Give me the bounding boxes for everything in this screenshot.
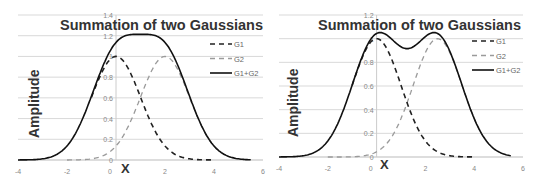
y-tick-label: 0.2 — [364, 130, 374, 137]
x-tick-label: 6 — [521, 165, 525, 172]
x-tick-label: 0 — [369, 165, 373, 172]
x-tick-label: 2 — [163, 168, 167, 175]
x-tick-label: 0 — [108, 168, 112, 175]
legend-label: G1 — [234, 40, 244, 49]
legend-label: G2 — [496, 52, 506, 61]
x-tick-label: -4 — [276, 165, 282, 172]
y-tick-label: 1.2 — [103, 33, 113, 40]
y-axis-label: Amplitude — [26, 70, 42, 138]
x-tick-label: -2 — [325, 165, 331, 172]
series-g2-line — [67, 56, 226, 160]
y-tick-label: 0.4 — [364, 107, 374, 114]
legend-label: G1+G2 — [496, 66, 520, 75]
y-tick-label: 0 — [109, 157, 113, 164]
y-tick-label: 0 — [370, 154, 374, 161]
x-tick-label: 4 — [472, 165, 476, 172]
series-g1-line — [352, 39, 474, 157]
x-tick-label: -2 — [64, 168, 70, 175]
x-tick-label: 2 — [423, 165, 427, 172]
y-tick-label: 0.8 — [103, 74, 113, 81]
x-tick-label: 4 — [212, 168, 216, 175]
y-axis-label: Amplitude — [285, 69, 301, 137]
chart-title: Summation of two Gaussians — [60, 17, 263, 33]
y-tick-label: 0.4 — [103, 116, 113, 123]
x-axis-label: X — [121, 161, 130, 176]
series-g2-line — [328, 39, 487, 157]
y-tick-label: 0.6 — [364, 83, 374, 90]
chart-panel-left: 00.20.40.60.811.21.4-4-20246G1G2G1+G2 Su… — [0, 0, 268, 184]
x-tick-label: 6 — [261, 168, 265, 175]
x-axis-label: X — [380, 157, 389, 172]
y-tick-label: 0.6 — [103, 95, 113, 102]
y-tick-label: 0.2 — [103, 136, 113, 143]
legend-label: G1+G2 — [234, 69, 258, 78]
legend-label: G2 — [234, 55, 244, 64]
chart-panel-right: 00.20.40.60.811.2-4-20246G1G2G1+G2 Summa… — [268, 0, 537, 184]
x-tick-label: -4 — [15, 168, 21, 175]
series-sum-line — [279, 33, 511, 158]
series-g1-line — [92, 56, 215, 160]
series-sum-line — [18, 34, 251, 160]
legend-label: G1 — [496, 37, 506, 46]
y-tick-label: 0.8 — [364, 59, 374, 66]
chart-title: Summation of two Gaussians — [318, 17, 521, 33]
